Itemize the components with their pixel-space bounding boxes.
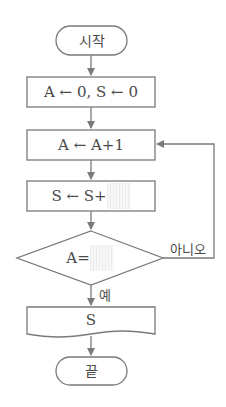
yes-edge-label: 예 xyxy=(99,289,111,302)
check-blank-box xyxy=(90,245,114,271)
accumulate-label: S ← S+ xyxy=(27,183,155,209)
start-label: 시작 xyxy=(56,34,127,48)
init-label: A ← 0, S ← 0 xyxy=(27,85,155,100)
check-label-prefix: A= xyxy=(66,251,89,266)
edge-check-increment-no xyxy=(157,144,214,258)
check-label: A= xyxy=(40,245,140,271)
increment-label: A ← A+1 xyxy=(27,138,155,153)
end-label: 끝 xyxy=(56,364,127,378)
no-edge-label: 아니오 xyxy=(170,243,206,256)
output-label: S xyxy=(27,313,155,328)
accumulate-label-prefix: S ← S+ xyxy=(51,189,106,204)
accumulate-blank-box xyxy=(107,183,131,209)
